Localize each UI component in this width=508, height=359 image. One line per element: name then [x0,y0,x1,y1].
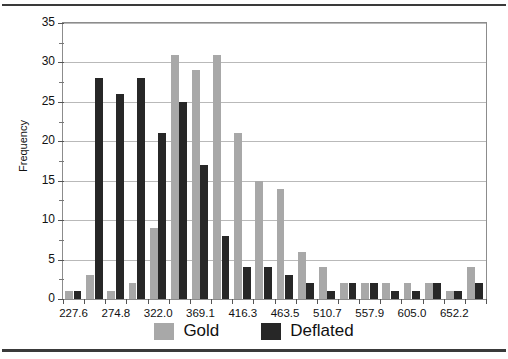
x-tick-mark [148,299,149,304]
y-tick-label: 15 [29,174,55,186]
bar-deflated-19 [475,283,483,299]
x-tick-mark [63,299,64,304]
x-tick-mark [401,299,402,304]
bar-deflated-17 [433,283,441,299]
y-tick-mark [58,141,64,142]
bar-gold-11 [298,252,306,299]
y-gridline [63,260,486,261]
legend-item: Gold [154,321,219,341]
y-gridline [63,141,486,142]
bar-deflated-7 [222,236,230,299]
y-minor-tick-mark [59,122,64,123]
x-tick-mark [465,299,466,304]
chart-figure: Frequency 05101520253035227.6274.8322.03… [0,0,508,359]
bar-deflated-6 [200,165,208,299]
y-tick-mark [58,62,64,63]
bar-gold-10 [277,189,285,299]
legend-label: Deflated [290,321,353,341]
bar-gold-7 [213,55,221,299]
y-minor-tick-mark [59,200,64,201]
y-tick-label: 0 [29,292,55,304]
bar-deflated-10 [285,275,293,299]
bar-deflated-13 [349,283,357,299]
y-tick-label: 20 [29,134,55,146]
bottom-divider-rule [2,349,506,352]
legend-label: Gold [183,321,219,341]
x-tick-mark [380,299,381,304]
x-tick-mark [486,299,487,304]
y-tick-label: 30 [29,55,55,67]
y-minor-tick-mark [59,43,64,44]
x-tick-mark [444,299,445,304]
y-tick-label: 5 [29,253,55,265]
bar-gold-5 [171,55,179,299]
legend-item: Deflated [261,321,353,341]
bar-deflated-4 [158,133,166,299]
x-tick-mark [232,299,233,304]
bar-deflated-8 [243,267,251,299]
y-gridline [63,102,486,103]
y-axis-title: Frequency [17,101,29,191]
x-tick-mark [359,299,360,304]
x-tick-mark [169,299,170,304]
y-tick-label: 25 [29,95,55,107]
x-tick-mark [275,299,276,304]
bar-deflated-3 [137,78,145,299]
bar-deflated-18 [454,291,462,299]
x-tick-mark [211,299,212,304]
bar-gold-17 [425,283,433,299]
bar-deflated-2 [116,94,124,299]
legend-swatch [261,323,281,340]
bar-gold-15 [382,283,390,299]
x-tick-mark [338,299,339,304]
bar-gold-13 [340,283,348,299]
bar-deflated-14 [370,283,378,299]
y-tick-label: 35 [29,16,55,28]
bar-deflated-0 [74,291,82,299]
legend-swatch [154,323,174,340]
bar-deflated-1 [95,78,103,299]
y-tick-mark [58,220,64,221]
bar-deflated-11 [306,283,314,299]
x-tick-mark [84,299,85,304]
bar-gold-9 [255,181,263,299]
bar-gold-18 [446,291,454,299]
chart-legend: GoldDeflated [0,318,508,344]
y-gridline [63,181,486,182]
x-tick-mark [105,299,106,304]
y-tick-mark [58,23,64,24]
bar-gold-0 [65,291,73,299]
y-minor-tick-mark [59,161,64,162]
x-tick-mark [296,299,297,304]
bar-gold-8 [234,133,242,299]
y-tick-mark [58,181,64,182]
bar-deflated-15 [391,291,399,299]
bar-gold-2 [107,291,115,299]
bar-gold-6 [192,70,200,299]
y-minor-tick-mark [59,82,64,83]
bar-deflated-16 [412,291,420,299]
x-tick-mark [126,299,127,304]
y-minor-tick-mark [59,240,64,241]
x-tick-mark [423,299,424,304]
plot-area: 05101520253035227.6274.8322.0369.1416.34… [62,22,487,300]
bar-gold-12 [319,267,327,299]
bar-gold-16 [404,283,412,299]
bar-deflated-5 [179,102,187,299]
bar-gold-19 [467,267,475,299]
y-minor-tick-mark [59,279,64,280]
x-tick-mark [253,299,254,304]
bar-deflated-12 [327,291,335,299]
bar-gold-4 [150,228,158,299]
bar-gold-3 [129,283,137,299]
bar-deflated-9 [264,267,272,299]
y-gridline [63,23,486,24]
x-tick-mark [190,299,191,304]
x-tick-mark [317,299,318,304]
y-tick-mark [58,260,64,261]
bar-gold-1 [86,275,94,299]
y-gridline [63,220,486,221]
bar-gold-14 [361,283,369,299]
top-divider-rule [2,4,506,6]
y-tick-mark [58,102,64,103]
